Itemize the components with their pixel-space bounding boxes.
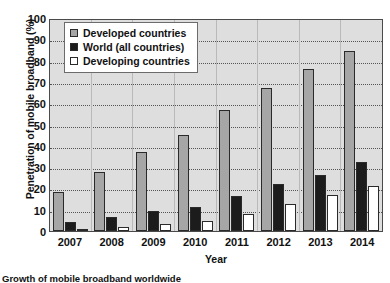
bar[interactable]: [368, 186, 379, 231]
x-tick-label: 2014: [341, 236, 383, 252]
bar[interactable]: [303, 69, 314, 231]
bar[interactable]: [344, 51, 355, 231]
x-tick-label: 2008: [91, 236, 133, 252]
bar[interactable]: [160, 224, 171, 231]
bar[interactable]: [231, 196, 242, 231]
bar[interactable]: [77, 229, 88, 231]
x-tick-label: 2013: [300, 236, 342, 252]
legend-item[interactable]: Developing countries: [70, 54, 190, 68]
bar[interactable]: [65, 222, 76, 231]
bar[interactable]: [285, 204, 296, 231]
y-tick-label: 30: [18, 162, 46, 174]
chart-figure: Penetration of mobile broadband (%) 1009…: [0, 0, 390, 283]
bar[interactable]: [315, 175, 326, 231]
y-tick-label: 80: [18, 56, 46, 68]
bar[interactable]: [178, 135, 189, 231]
legend-swatch-icon: [70, 57, 78, 65]
x-tick-label: 2012: [258, 236, 300, 252]
y-tick-label: 0: [18, 226, 46, 238]
bar-group: [257, 20, 299, 231]
y-tick-label: 40: [18, 141, 46, 153]
y-axis-tick-labels: 1009080706050403020100: [18, 12, 46, 238]
y-tick-label: 10: [18, 205, 46, 217]
legend-item[interactable]: Developed countries: [70, 26, 190, 40]
y-tick-label: 70: [18, 77, 46, 89]
y-tick-label: 60: [18, 98, 46, 110]
bar[interactable]: [136, 152, 147, 231]
bar-group: [216, 20, 258, 231]
x-axis-title: Year: [49, 253, 383, 265]
bar-group: [299, 20, 341, 231]
bar[interactable]: [94, 172, 105, 231]
legend-label: World (all countries): [83, 41, 184, 53]
y-tick-label: 20: [18, 183, 46, 195]
y-tick-label: 100: [18, 13, 46, 25]
legend-label: Developed countries: [83, 27, 186, 39]
x-tick-label: 2010: [174, 236, 216, 252]
y-tick-label: 90: [18, 34, 46, 46]
bar[interactable]: [202, 221, 213, 231]
bar[interactable]: [356, 162, 367, 231]
x-tick-label: 2007: [49, 236, 91, 252]
bar[interactable]: [327, 195, 338, 231]
x-tick-label: 2011: [216, 236, 258, 252]
legend-swatch-icon: [70, 43, 78, 51]
x-axis-tick-labels: 20072008200920102011201220132014: [49, 236, 383, 252]
legend-swatch-icon: [70, 29, 78, 37]
bar[interactable]: [273, 184, 284, 231]
chart-legend: Developed countriesWorld (all countries)…: [64, 22, 198, 73]
bar-group: [340, 20, 382, 231]
bar[interactable]: [106, 217, 117, 231]
y-tick-label: 50: [18, 120, 46, 132]
bar[interactable]: [261, 88, 272, 231]
x-tick-label: 2009: [133, 236, 175, 252]
bar[interactable]: [53, 192, 64, 231]
bar[interactable]: [190, 207, 201, 231]
figure-caption: Growth of mobile broadband worldwide: [2, 273, 390, 283]
legend-item[interactable]: World (all countries): [70, 40, 190, 54]
bar[interactable]: [148, 211, 159, 231]
bar[interactable]: [118, 227, 129, 231]
bar[interactable]: [219, 110, 230, 231]
bar[interactable]: [243, 214, 254, 231]
legend-label: Developing countries: [83, 55, 190, 67]
